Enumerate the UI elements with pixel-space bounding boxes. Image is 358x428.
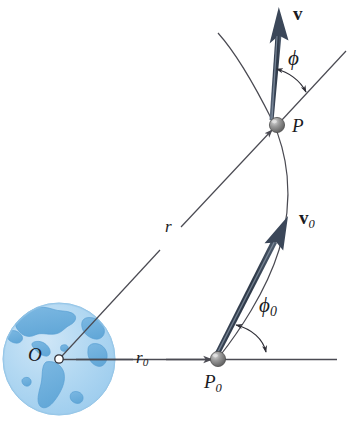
label-phi0-subscript: 0 [270, 304, 277, 319]
label-angle-phi0: ϕ0 [259, 295, 277, 319]
orbital-mechanics-diagram: v v0 ϕ ϕ0 P P0 O r r0 [0, 0, 358, 428]
label-p0-subscript: 0 [216, 381, 222, 395]
label-radius-r0: r0 [136, 349, 148, 368]
phi0-angle-arc [236, 325, 266, 352]
label-point-p: P [292, 116, 304, 135]
label-r0-subscript: 0 [143, 356, 149, 368]
label-v0-subscript: 0 [309, 217, 315, 231]
label-radius-r: r [165, 218, 172, 235]
radial-line-upper [181, 130, 272, 227]
v-arrow-shaft [270, 35, 282, 121]
point-p-marker [269, 117, 284, 132]
point-p0-specular [213, 354, 218, 358]
label-velocity-v0: v0 [299, 208, 315, 230]
label-point-p0: P0 [204, 372, 222, 394]
label-v0-base: v [299, 207, 309, 228]
velocity-vector-v [270, 7, 289, 121]
label-angle-phi: ϕ [288, 48, 299, 69]
point-p-specular [272, 120, 277, 124]
velocity-vector-v0 [213, 216, 288, 359]
label-r0-base: r [136, 348, 143, 367]
origin-marker [55, 355, 63, 363]
v0-arrow-head [265, 216, 289, 251]
label-origin-o: O [28, 345, 42, 364]
label-phi0-base: ϕ [259, 293, 270, 317]
phi-angle-arc [277, 69, 307, 92]
point-p0-marker [210, 351, 225, 366]
trajectory-curve [218, 33, 288, 357]
label-velocity-v: v [293, 4, 303, 23]
label-p0-base: P [204, 371, 216, 392]
